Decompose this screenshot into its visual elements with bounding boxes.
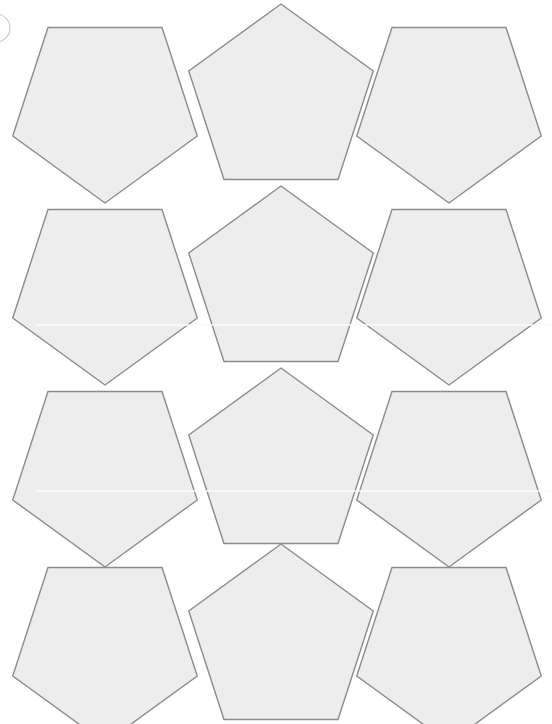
pentagon-shape[interactable] <box>189 368 374 543</box>
pentagon-tiling-svg <box>0 0 552 724</box>
pentagon-shape[interactable] <box>189 4 374 179</box>
pentagon-layer <box>13 4 542 724</box>
pentagon-shape[interactable] <box>357 568 542 724</box>
pentagon-shape[interactable] <box>13 568 198 724</box>
pentagon-sheet-canvas <box>0 0 552 724</box>
pentagon-shape[interactable] <box>357 392 542 567</box>
pentagon-shape[interactable] <box>357 210 542 385</box>
corner-circle-icon <box>0 14 10 42</box>
pentagon-shape[interactable] <box>13 28 198 203</box>
pentagon-shape[interactable] <box>357 28 542 203</box>
pentagon-shape[interactable] <box>189 544 374 719</box>
pentagon-shape[interactable] <box>13 210 198 385</box>
pentagon-shape[interactable] <box>13 392 198 567</box>
pentagon-shape[interactable] <box>189 186 374 361</box>
